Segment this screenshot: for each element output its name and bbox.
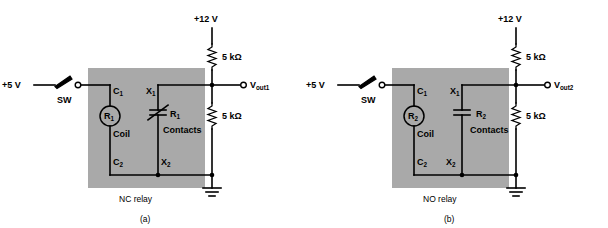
resistor-top-label-b: 5 kΩ — [526, 52, 546, 62]
supply-5v-label-a: +5 V — [2, 80, 21, 90]
resistor-bottom-label-b: 5 kΩ — [526, 111, 546, 121]
coil-label-b: Coil — [417, 129, 434, 139]
switch-terminal-a[interactable] — [75, 82, 81, 88]
caption-b: (b) — [444, 214, 455, 224]
relay-circuit-figure: +5 V SW +12 V 5 kΩ 5 kΩ Vout1 C1 C2 X1 X… — [0, 0, 608, 228]
switch-blade-b[interactable] — [359, 76, 376, 89]
supply-12v-label-a: +12 V — [194, 14, 218, 24]
resistor-top-b — [512, 44, 520, 70]
switch-blade-a[interactable] — [55, 76, 72, 89]
output-label-b: Vout2 — [554, 80, 574, 91]
resistor-top-a — [208, 44, 216, 70]
x2-node-dot-a — [156, 173, 161, 178]
circuit-a: +5 V SW +12 V 5 kΩ 5 kΩ Vout1 C1 C2 X1 X… — [2, 14, 270, 224]
x2-node-dot-b — [460, 173, 465, 178]
resistor-bottom-a — [208, 103, 216, 129]
coil-label-a: Coil — [113, 129, 130, 139]
resistor-bottom-b — [512, 103, 520, 129]
output-label-a: Vout1 — [250, 80, 270, 91]
relay-type-label-a: NC relay — [119, 194, 153, 204]
output-terminal-b[interactable] — [545, 82, 551, 88]
contacts-label-a: Contacts — [163, 125, 202, 135]
output-terminal-a[interactable] — [241, 82, 247, 88]
supply-5v-label-b: +5 V — [306, 80, 325, 90]
contacts-label-b: Contacts — [470, 125, 509, 135]
switch-label-b: SW — [361, 95, 376, 105]
switch-label-a: SW — [57, 95, 72, 105]
relay-type-label-b: NO relay — [423, 194, 457, 204]
resistor-bottom-label-a: 5 kΩ — [222, 111, 242, 121]
supply-12v-label-b: +12 V — [498, 14, 522, 24]
resistor-top-label-a: 5 kΩ — [222, 52, 242, 62]
switch-terminal-b[interactable] — [379, 82, 385, 88]
circuit-b: +5 V SW +12 V 5 kΩ 5 kΩ Vout2 C1 C2 X1 X… — [306, 14, 574, 224]
caption-a: (a) — [140, 214, 151, 224]
